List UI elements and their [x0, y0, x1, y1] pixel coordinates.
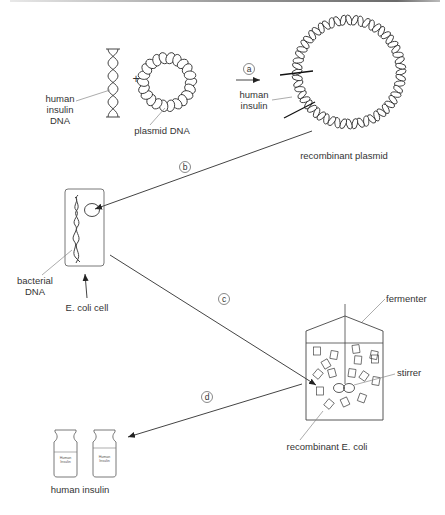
- step-a-badge: a: [244, 64, 255, 75]
- recombinant-e-coli-label: recombinant E. coli: [287, 441, 368, 452]
- step-d-arrow: [128, 384, 302, 437]
- bacterial-dna-label: bacterial DNA: [17, 275, 53, 297]
- svg-text:insulin: insulin: [241, 100, 268, 111]
- plasmid-dna-label: plasmid DNA: [134, 125, 190, 136]
- step-b-badge: b: [180, 162, 191, 173]
- stirrer-paddle: [334, 384, 355, 393]
- fermenter-leader: [362, 299, 385, 322]
- human-insulin-insert-label: human insulin: [239, 89, 268, 111]
- human-insulin-dna-label: human insulin DNA: [45, 93, 74, 126]
- svg-text:human: human: [45, 93, 74, 104]
- svg-text:Insulin: Insulin: [60, 460, 70, 464]
- step-c-badge: c: [219, 294, 230, 305]
- recombinant-e-coli-leader: [300, 411, 323, 440]
- plasmid-dna-ring: [136, 51, 198, 112]
- recombinant-plasmid-label: recombinant plasmid: [300, 150, 388, 161]
- recombinant-e-coli-cells: [313, 345, 380, 410]
- inserted-plasmid: [85, 204, 100, 217]
- plasmid-dna-leader: [150, 108, 165, 125]
- svg-text:Insulin: Insulin: [99, 459, 109, 463]
- svg-text:d: d: [205, 392, 210, 402]
- e-coli-cell-pointer: [85, 274, 87, 298]
- insulin-production-diagram: human insulin DNA + plasmid DNA a human …: [0, 0, 445, 515]
- human-insulin-insert-leader: [272, 97, 292, 100]
- bacterial-dna-strand: [73, 195, 80, 263]
- svg-text:insulin: insulin: [47, 104, 74, 115]
- svg-text:c: c: [222, 294, 227, 304]
- svg-text:human: human: [239, 89, 268, 100]
- step-b-arrow: [95, 131, 312, 209]
- step-c-arrow: [110, 255, 316, 385]
- human-insulin-product-label: human insulin: [51, 484, 110, 495]
- bacterial-dna-leader: [42, 250, 72, 275]
- stirrer-label: stirrer: [397, 367, 421, 378]
- svg-text:a: a: [247, 64, 252, 74]
- human-insulin-dna-leader: [76, 90, 110, 101]
- step-d-badge: d: [202, 392, 213, 403]
- svg-text:b: b: [183, 162, 188, 172]
- insulin-bottle-2: Human Insulin: [93, 430, 116, 477]
- svg-text:bacterial: bacterial: [17, 275, 53, 286]
- e-coli-cell-label: E. coli cell: [66, 302, 109, 313]
- human-insulin-dna-helix: [106, 49, 120, 117]
- svg-text:DNA: DNA: [50, 115, 71, 126]
- fermenter-label: fermenter: [386, 293, 427, 304]
- e-coli-cell-body: [65, 189, 104, 266]
- svg-text:DNA: DNA: [25, 286, 46, 297]
- insulin-bottle-1: Human Insulin: [54, 430, 77, 477]
